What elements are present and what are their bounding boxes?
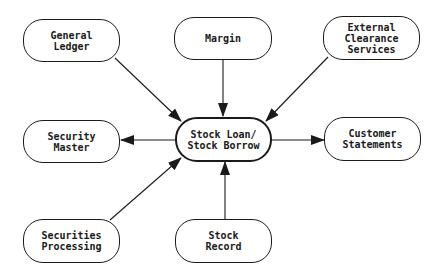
node-customer-statements: Customer Statements [324, 117, 421, 161]
node-label-line: Stock [208, 230, 238, 241]
diagram-canvas: General Ledger Margin External Clearance… [0, 0, 444, 279]
edge-general-ledger-to-center [115, 58, 181, 121]
node-security-master: Security Master [23, 120, 120, 163]
node-label-line: Margin [205, 33, 241, 44]
node-label-line: Statements [342, 139, 402, 150]
node-stock-record: Stock Record [175, 219, 272, 263]
node-label-line: General [50, 30, 92, 41]
node-securities-processing: Securities Processing [23, 219, 120, 263]
node-general-ledger: General Ledger [23, 19, 120, 62]
node-external-clearance-services: External Clearance Services [323, 16, 420, 60]
node-margin: Margin [174, 17, 272, 60]
edge-securities-processing-to-center [110, 158, 181, 220]
edge-external-clearance-to-center [266, 57, 328, 121]
node-label-line: Processing [41, 241, 101, 252]
node-label-line: Record [205, 241, 241, 252]
node-label-line: Services [347, 44, 395, 55]
node-label-line: Customer [348, 128, 396, 139]
node-label-line: Master [53, 142, 89, 153]
node-label-line: Stock Loan/ [190, 129, 256, 140]
node-label-line: Clearance [344, 33, 398, 44]
node-label-line: Ledger [53, 41, 89, 52]
node-stock-loan-stock-borrow: Stock Loan/ Stock Borrow [175, 117, 272, 162]
node-label-line: Securities [41, 230, 101, 241]
node-label-line: Security [47, 131, 95, 142]
node-label-line: External [347, 22, 395, 33]
node-label-line: Stock Borrow [187, 140, 259, 151]
